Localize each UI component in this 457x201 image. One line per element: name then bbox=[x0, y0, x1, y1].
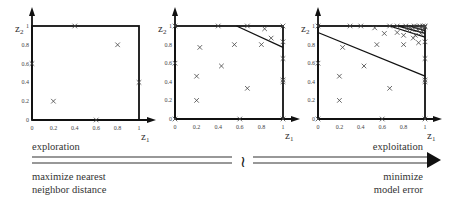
y-tick-label: 0 bbox=[312, 116, 315, 122]
sample-point-marker bbox=[411, 36, 416, 41]
sample-point-marker bbox=[269, 36, 274, 41]
sample-point-marker bbox=[194, 98, 199, 103]
break-symbol: ≀ bbox=[240, 152, 246, 171]
sample-point-marker bbox=[362, 64, 367, 69]
sample-point-marker bbox=[337, 98, 342, 103]
sample-point-marker bbox=[340, 45, 345, 50]
x-tick-label: 0.6 bbox=[236, 124, 244, 130]
x-tick-label: 0 bbox=[174, 124, 177, 130]
x-tick-label: 0.2 bbox=[193, 124, 201, 130]
sample-point-marker bbox=[115, 43, 120, 48]
sample-point-marker bbox=[259, 42, 264, 47]
y-tick-label: 0.4 bbox=[308, 79, 316, 85]
exploration-label: exploration bbox=[32, 140, 80, 153]
y-tick-label: 0 bbox=[169, 116, 172, 122]
y-tick-label: 0.4 bbox=[22, 79, 30, 85]
exploration-description: maximize nearest neighbor distance bbox=[32, 170, 106, 196]
boundary-line bbox=[237, 26, 283, 47]
x-tick-label: 0.4 bbox=[71, 125, 79, 131]
y-tick-label: 0.2 bbox=[22, 98, 30, 104]
arrow-head bbox=[427, 152, 441, 168]
y-axis-label: z2 bbox=[158, 22, 167, 36]
sample-point-marker bbox=[51, 99, 56, 104]
sample-point-marker bbox=[194, 74, 199, 79]
y-tick-label: 0.6 bbox=[308, 60, 316, 66]
x-axis-label: z1 bbox=[141, 130, 150, 144]
sample-point-marker bbox=[387, 86, 392, 91]
y-tick-label: 0.8 bbox=[165, 42, 173, 48]
plot-frame bbox=[32, 26, 139, 120]
y-tick-label: 0.2 bbox=[165, 97, 173, 103]
x-tick-label: 0 bbox=[31, 125, 34, 131]
x-tick-label: 0.2 bbox=[336, 124, 344, 130]
x-axis-label: z1 bbox=[427, 129, 436, 143]
y-axis-label: z2 bbox=[301, 22, 310, 36]
y-tick-label: 1 bbox=[312, 23, 315, 29]
exploration-desc-line-2: neighbor distance bbox=[32, 183, 106, 196]
exploitation-description: minimize model error bbox=[374, 170, 423, 196]
y-axis-label-subscript: 2 bbox=[306, 28, 310, 36]
sample-point-marker bbox=[382, 31, 387, 36]
sample-point-marker bbox=[262, 26, 267, 31]
y-axis-arrowhead bbox=[29, 7, 35, 16]
x-axis-label-subscript: 1 bbox=[290, 135, 294, 143]
exploitation-desc-line-2: model error bbox=[374, 183, 423, 196]
x-tick-label: 0.4 bbox=[214, 124, 222, 130]
x-axis-label-subscript: 1 bbox=[432, 135, 436, 143]
y-tick-label: 0 bbox=[26, 117, 29, 123]
x-axis-label: z1 bbox=[285, 129, 294, 143]
sample-point-marker bbox=[401, 33, 406, 38]
boundary-line bbox=[318, 33, 425, 77]
y-tick-label: 0.8 bbox=[22, 42, 30, 48]
sample-point-marker bbox=[401, 42, 406, 47]
sample-point-marker bbox=[375, 42, 380, 47]
sample-point-marker bbox=[395, 30, 400, 35]
plot-panel-1: 00.20.40.60.8100.20.40.60.81z1z2 bbox=[15, 7, 156, 144]
sample-point-marker bbox=[198, 45, 203, 50]
sample-point-marker bbox=[337, 74, 342, 79]
sample-point-marker bbox=[245, 86, 250, 91]
plot-panel-3: 00.20.40.60.8100.20.40.60.81z1z2 bbox=[301, 7, 442, 143]
x-axis-arrowhead bbox=[291, 116, 300, 122]
y-axis-arrowhead bbox=[172, 7, 178, 16]
y-axis-label-subscript: 2 bbox=[20, 28, 24, 36]
exploration-desc-line-1: maximize nearest bbox=[32, 170, 106, 183]
y-tick-label: 0.8 bbox=[308, 42, 316, 48]
x-tick-label: 0.8 bbox=[258, 124, 266, 130]
y-tick-label: 0.6 bbox=[165, 60, 173, 66]
x-tick-label: 0 bbox=[317, 124, 320, 130]
plot-panel-2: 00.20.40.60.8100.20.40.60.81z1z2 bbox=[158, 7, 300, 143]
x-tick-label: 0.6 bbox=[378, 124, 386, 130]
x-axis-arrowhead bbox=[147, 117, 156, 123]
x-tick-label: 0.6 bbox=[92, 125, 100, 131]
x-tick-label: 0.4 bbox=[357, 124, 365, 130]
sample-point-marker bbox=[416, 40, 421, 45]
x-tick-label: 0.8 bbox=[400, 124, 408, 130]
y-tick-label: 0.4 bbox=[165, 79, 173, 85]
sample-point-marker bbox=[219, 64, 224, 69]
x-axis-arrowhead bbox=[433, 116, 442, 122]
y-tick-label: 0.2 bbox=[308, 97, 316, 103]
y-axis-label: z2 bbox=[15, 22, 24, 36]
x-axis-label-subscript: 1 bbox=[146, 136, 150, 144]
plot-frame bbox=[318, 26, 425, 119]
exploitation-label: exploitation bbox=[373, 140, 423, 153]
y-axis-arrowhead bbox=[315, 7, 321, 16]
y-tick-label: 1 bbox=[26, 23, 29, 29]
sample-point-marker bbox=[232, 42, 237, 47]
y-tick-label: 1 bbox=[169, 23, 172, 29]
x-tick-label: 0.8 bbox=[114, 125, 122, 131]
y-axis-label-subscript: 2 bbox=[163, 28, 167, 36]
y-tick-label: 0.6 bbox=[22, 61, 30, 67]
spectrum-arrow: ≀ bbox=[32, 152, 441, 171]
x-tick-label: 0.2 bbox=[50, 125, 58, 131]
exploitation-desc-line-1: minimize bbox=[374, 170, 423, 183]
